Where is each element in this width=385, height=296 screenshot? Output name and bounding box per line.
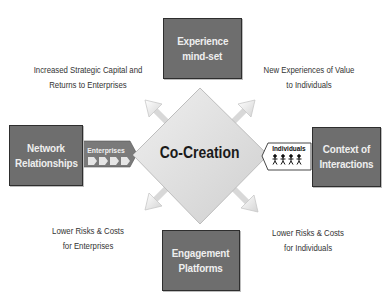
box-line: Relationships [15,156,78,171]
outcome-line: Lower Risks & Costs [267,225,349,240]
enterprises-label: Enterprises [84,146,128,155]
box-line: Experience [177,34,228,49]
outcome-bottom-left: Lower Risks & Costs for Enterprises [38,223,138,253]
box-engagement-platforms: Engagement Platforms [162,230,240,291]
outcome-line: Lower Risks & Costs [47,223,129,238]
outcome-line: for Individuals [267,240,349,255]
box-line: mind-set [183,49,223,64]
box-line: Engagement [172,246,230,261]
outcome-line: for Enterprises [47,238,129,253]
individuals-label: Individuals [268,144,310,153]
co-creation-text: Co-Creation [160,143,240,163]
box-line: Platforms [179,261,223,276]
box-context-of-interactions: Context of Interactions [312,127,381,187]
box-line: Context of [323,142,370,157]
outcome-line: to Individuals [261,77,358,92]
outcome-top-left: Increased Strategic Capital and Returns … [18,62,158,92]
co-creation-label: Co-Creation [140,143,260,163]
outcome-top-right: New Experiences of Value to Individuals [250,62,368,92]
outcome-line: Increased Strategic Capital and [31,62,146,77]
individuals-text: Individuals [272,144,305,153]
box-line: Interactions [319,157,373,172]
enterprises-text: Enterprises [87,146,124,155]
outcome-line: Returns to Enterprises [31,77,146,92]
box-experience-mindset: Experience mind-set [163,18,242,79]
outcome-line: New Experiences of Value [261,62,358,77]
box-network-relationships: Network Relationships [9,125,83,186]
outcome-bottom-right: Lower Risks & Costs for Individuals [258,225,358,255]
box-line: Network [27,141,65,156]
